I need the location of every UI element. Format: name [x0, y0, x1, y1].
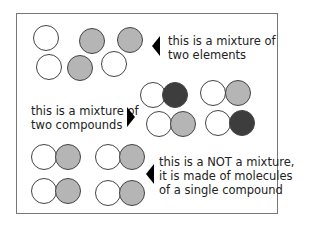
arrow-left-icon: [152, 36, 160, 56]
grey-atom: [55, 144, 81, 170]
white-atom: [36, 54, 62, 80]
label-single-compound: this is a NOT a mixture, it is made of m…: [159, 155, 294, 197]
arrow-right-icon: [127, 107, 135, 127]
grey-atom: [67, 55, 93, 81]
label-elements: this is a mixture of two elements: [168, 34, 275, 62]
grey-atom: [119, 180, 145, 206]
white-atom: [205, 110, 231, 136]
white-atom: [200, 80, 226, 106]
white-atom: [31, 144, 57, 170]
white-atom: [146, 111, 172, 137]
grey-atom: [117, 27, 143, 53]
grey-atom: [170, 111, 196, 137]
grey-atom: [119, 144, 145, 170]
white-atom: [33, 25, 59, 51]
white-atom: [101, 51, 127, 77]
grey-atom: [79, 28, 105, 54]
dark-atom: [162, 82, 188, 108]
grey-atom: [225, 80, 251, 106]
dark-atom: [229, 110, 255, 136]
white-atom: [31, 178, 57, 204]
white-atom: [95, 180, 121, 206]
grey-atom: [55, 178, 81, 204]
arrow-left-icon: [146, 164, 154, 184]
white-atom: [95, 144, 121, 170]
label-compounds: this is a mixture of two compounds: [31, 104, 138, 132]
